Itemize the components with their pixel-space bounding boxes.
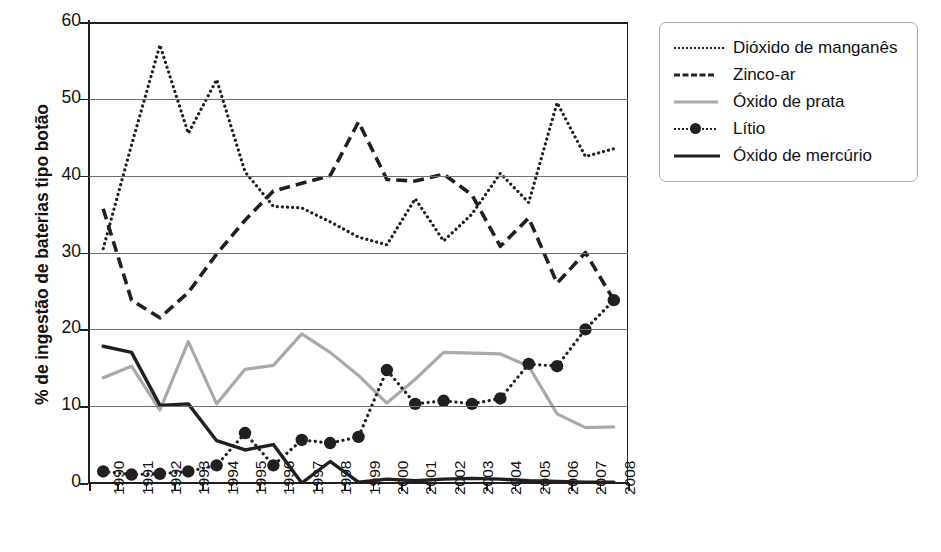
legend-swatch-black-line-icon — [674, 149, 724, 163]
gridline — [89, 406, 628, 407]
data-point-marker — [494, 392, 506, 404]
gridline — [89, 176, 628, 177]
data-point-marker — [267, 459, 279, 471]
data-point-marker — [125, 468, 137, 480]
y-tick-label: 20 — [43, 317, 81, 338]
data-point-marker — [210, 459, 222, 471]
series-4 — [103, 346, 614, 483]
y-tick-label: 60 — [43, 10, 81, 31]
y-tick — [80, 176, 88, 178]
y-tick — [80, 483, 88, 485]
y-tick-label: 0 — [43, 471, 81, 492]
data-point-marker — [154, 468, 166, 480]
plot-area — [89, 22, 628, 483]
data-point-marker — [409, 398, 421, 410]
y-tick — [80, 329, 88, 331]
data-point-marker — [466, 398, 478, 410]
legend-label: Óxido de prata — [733, 92, 845, 112]
gridline — [89, 253, 628, 254]
legend-label: Lítio — [733, 119, 765, 139]
legend-label: Zinco-ar — [733, 65, 795, 85]
legend-swatch-gray-line-icon — [674, 95, 724, 109]
data-point-marker — [296, 434, 308, 446]
data-point-marker — [551, 360, 563, 372]
chart-figure: % de ingestão de baterias tipo botão 010… — [0, 0, 941, 552]
data-point-marker — [182, 465, 194, 477]
data-point-marker — [352, 431, 364, 443]
data-point-marker — [437, 395, 449, 407]
x-tick — [89, 483, 91, 491]
legend-item-zinc-air: Zinco-ar — [674, 61, 917, 88]
legend-label: Dióxido de manganês — [733, 38, 897, 58]
y-tick-label: 30 — [43, 241, 81, 262]
gridline — [89, 329, 628, 330]
data-point-marker — [608, 294, 620, 306]
data-point-marker — [97, 465, 109, 477]
plot-frame-top — [89, 22, 628, 24]
series-2 — [103, 334, 614, 428]
legend-item-manganese-dioxide: Dióxido de manganês — [674, 34, 917, 61]
chart-legend: Dióxido de manganês Zinco-ar Óxido de pr… — [659, 22, 918, 182]
legend-item-silver-oxide: Óxido de prata — [674, 88, 917, 115]
legend-swatch-dotted-marker-icon — [674, 122, 724, 136]
series-0 — [103, 45, 614, 249]
data-point-marker — [381, 364, 393, 376]
y-tick — [80, 99, 88, 101]
gridline — [89, 99, 628, 100]
legend-swatch-dashed-icon — [674, 68, 724, 82]
data-point-marker — [324, 437, 336, 449]
y-tick — [80, 22, 88, 24]
legend-item-lithium: Lítio — [674, 115, 917, 142]
data-point-marker — [523, 358, 535, 370]
y-tick-label: 10 — [43, 394, 81, 415]
y-tick-label: 40 — [43, 164, 81, 185]
legend-swatch-dotted-icon — [674, 41, 724, 55]
legend-label: Óxido de mercúrio — [733, 146, 872, 166]
series-1 — [103, 122, 614, 318]
legend-item-mercury-oxide: Óxido de mercúrio — [674, 142, 917, 169]
y-tick — [80, 253, 88, 255]
y-tick-label: 50 — [43, 87, 81, 108]
y-tick — [80, 406, 88, 408]
data-point-marker — [239, 427, 251, 439]
